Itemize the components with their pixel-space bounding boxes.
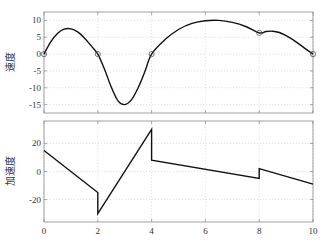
- y-tick-label: 5: [37, 32, 42, 42]
- x-tick-label: 4: [149, 226, 154, 236]
- velocity-axis-label: 速度: [4, 52, 16, 72]
- x-tick-label: 10: [309, 226, 319, 236]
- chart-figure: 1050-5-10-15 200-200246810 速度 加速度: [0, 0, 326, 243]
- y-tick-label: 0: [37, 167, 42, 177]
- x-tick-label: 8: [257, 226, 262, 236]
- y-tick-label: -20: [29, 195, 41, 205]
- y-tick-label: -15: [29, 100, 41, 110]
- axes-frame: [44, 12, 313, 113]
- velocity-subplot: 1050-5-10-15: [29, 12, 316, 113]
- x-tick-label: 2: [96, 226, 101, 236]
- y-tick-label: 0: [37, 49, 42, 59]
- y-tick-label: 10: [32, 15, 42, 25]
- acceleration-subplot: 200-200246810: [29, 121, 318, 236]
- x-tick-label: 6: [203, 226, 208, 236]
- y-tick-label: 20: [32, 138, 42, 148]
- y-tick-label: -5: [34, 66, 42, 76]
- velocity-curve: [44, 20, 313, 104]
- x-tick-label: 0: [42, 226, 47, 236]
- acceleration-axis-label: 加速度: [4, 156, 16, 186]
- y-tick-label: -10: [29, 83, 41, 93]
